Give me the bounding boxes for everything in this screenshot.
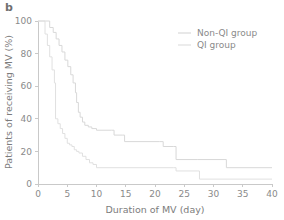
y-tick-label: 20 (21, 147, 33, 157)
figure-panel: b 020406080100 0510152025303540 Non-QI g… (0, 0, 284, 220)
x-tick-label: 40 (266, 189, 278, 199)
legend-label: QI group (197, 40, 236, 50)
x-tick-label: 35 (237, 189, 248, 199)
x-axis-title: Duration of MV (day) (105, 204, 204, 215)
x-tick-label: 0 (35, 189, 41, 199)
x-tick-label: 10 (91, 189, 103, 199)
legend-label: Non-QI group (197, 28, 258, 38)
chart-canvas: 020406080100 0510152025303540 Non-QI gro… (0, 0, 284, 220)
x-axis-ticks: 0510152025303540 (35, 184, 278, 199)
y-tick-label: 0 (26, 179, 32, 189)
x-tick-label: 30 (208, 189, 220, 199)
y-tick-label: 80 (21, 49, 33, 59)
x-tick-label: 20 (149, 189, 161, 199)
y-tick-label: 40 (21, 114, 33, 124)
chart-legend: Non-QI groupQI group (178, 28, 258, 50)
data-series-group (38, 21, 272, 179)
y-axis-title: Patients of receiving MV (%) (3, 35, 14, 169)
x-tick-label: 5 (64, 189, 70, 199)
y-axis-ticks: 020406080100 (15, 16, 38, 189)
x-tick-label: 25 (179, 189, 190, 199)
series-line-qi-group (38, 21, 272, 179)
x-tick-label: 15 (120, 189, 131, 199)
axes-group (38, 21, 272, 184)
y-tick-label: 100 (15, 16, 32, 26)
series-line-non-qi-group (38, 21, 272, 168)
y-tick-label: 60 (21, 81, 33, 91)
